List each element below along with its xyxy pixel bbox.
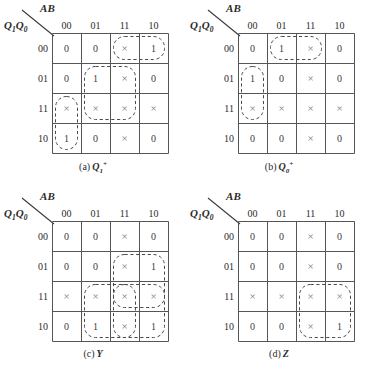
kmap-cell-r3-c2: × <box>110 123 139 153</box>
kmap-cell-r1-c0: 0 <box>238 251 267 281</box>
kmap-cell-r0-c3: 1 <box>139 33 168 63</box>
panel-caption: (c)Y <box>0 348 186 359</box>
kmap-cell-r1-c3: 0 <box>325 251 354 281</box>
panel-caption: (b)Q0+ <box>186 160 372 175</box>
kmap-cell-r0-c2: × <box>296 33 325 63</box>
row-header-11-2: 11 <box>210 103 234 114</box>
axis-top-label: AB <box>40 190 55 202</box>
row-header-10-3: 10 <box>210 321 234 332</box>
column-header-01-1: 01 <box>267 20 296 31</box>
column-header-10-3: 10 <box>325 208 354 219</box>
kmap-panel-a: ABQ1Q0000111100001111000×101×0××××10×0(a… <box>0 0 186 188</box>
kmap-cell-r3-c1: 0 <box>267 311 296 341</box>
kmap-cell-r2-c1: × <box>267 93 296 123</box>
row-header-11-2: 11 <box>24 103 48 114</box>
panel-caption: (d)Z <box>186 348 372 359</box>
caption-index: (b) <box>265 161 277 172</box>
row-header-01-1: 01 <box>210 261 234 272</box>
caption-index: (a) <box>79 161 90 172</box>
caption-index: (d) <box>269 348 281 359</box>
kmap-grid: 00×000×0××××00×1 <box>238 221 354 341</box>
column-header-01-1: 01 <box>81 20 110 31</box>
kmap-grid: 00×000×1××××01×1 <box>52 221 168 341</box>
kmap-cell-r2-c1: × <box>267 281 296 311</box>
kmap-cell-r0-c3: 0 <box>325 33 354 63</box>
kmap-cell-r2-c1: × <box>81 281 110 311</box>
caption-name: Q0+ <box>278 161 293 172</box>
kmap-cell-r3-c2: × <box>296 123 325 153</box>
column-header-11-2: 11 <box>296 208 325 219</box>
row-header-01-1: 01 <box>24 73 48 84</box>
row-header-01-1: 01 <box>210 73 234 84</box>
column-header-11-2: 11 <box>110 20 139 31</box>
column-header-00-0: 00 <box>52 208 81 219</box>
column-header-10-3: 10 <box>325 20 354 31</box>
kmap-figure: ABQ1Q0000111100001111000×101×0××××10×0(a… <box>0 0 372 376</box>
panel-caption: (a)Q1+ <box>0 160 186 175</box>
kmap-cell-r3-c3: 1 <box>325 311 354 341</box>
axis-top-label: AB <box>40 2 55 14</box>
axis-left-q1: Q1 <box>4 207 16 219</box>
caption-name: Q1+ <box>92 161 107 172</box>
kmap-cell-r2-c0: × <box>52 93 81 123</box>
row-header-10-3: 10 <box>24 133 48 144</box>
kmap-cell-r1-c1: 0 <box>267 63 296 93</box>
kmap-cell-r1-c2: × <box>296 63 325 93</box>
caption-index: (c) <box>83 348 94 359</box>
axis-left-label: Q1Q0 <box>4 19 27 34</box>
kmap-panel-c: ABQ1Q0000111100001111000×000×1××××01×1(c… <box>0 188 186 376</box>
row-header-00-0: 00 <box>210 43 234 54</box>
axis-left-q1: Q1 <box>190 19 202 31</box>
axis-top-label: AB <box>226 2 241 14</box>
kmap-cell-r0-c0: 0 <box>52 221 81 251</box>
kmap-grid: 01×010×0××××00×0 <box>238 33 354 153</box>
kmap-cell-r0-c1: 0 <box>81 221 110 251</box>
kmap-cell-r2-c2: × <box>110 281 139 311</box>
kmap-cell-r2-c0: × <box>52 281 81 311</box>
kmap-cell-r1-c3: 0 <box>325 63 354 93</box>
kmap-cell-r2-c1: × <box>81 93 110 123</box>
axis-left-q0: Q0 <box>16 19 28 31</box>
kmap-cell-r2-c3: × <box>139 281 168 311</box>
kmap-cell-r0-c2: × <box>296 221 325 251</box>
row-header-10-3: 10 <box>24 321 48 332</box>
axis-left-q1: Q1 <box>4 19 16 31</box>
axis-top-label: AB <box>226 190 241 202</box>
kmap-cell-r3-c2: × <box>110 311 139 341</box>
kmap-cell-r1-c1: 0 <box>267 251 296 281</box>
kmap-cell-r1-c3: 1 <box>139 251 168 281</box>
kmap-cell-r1-c0: 1 <box>238 63 267 93</box>
row-header-00-0: 00 <box>210 231 234 242</box>
kmap-cell-r0-c3: 0 <box>139 221 168 251</box>
kmap-cell-r2-c2: × <box>296 93 325 123</box>
kmap-cell-r3-c3: 0 <box>325 123 354 153</box>
axis-left-q0: Q0 <box>202 19 214 31</box>
kmap-cell-r1-c1: 0 <box>81 251 110 281</box>
kmap-cell-r0-c3: 0 <box>325 221 354 251</box>
column-header-00-0: 00 <box>52 20 81 31</box>
kmap-cell-r0-c1: 0 <box>267 221 296 251</box>
kmap-cell-r3-c1: 0 <box>267 123 296 153</box>
kmap-cell-r2-c2: × <box>296 281 325 311</box>
kmap-panel-b: ABQ1Q0000111100001111001×010×0××××00×0(b… <box>186 0 372 188</box>
kmap-cell-r1-c2: × <box>296 251 325 281</box>
kmap-cell-r3-c1: 1 <box>81 311 110 341</box>
kmap-cell-r2-c3: × <box>139 93 168 123</box>
kmap-cell-r3-c0: 0 <box>238 123 267 153</box>
axis-left-label: Q1Q0 <box>190 19 213 34</box>
kmap-cell-r2-c3: × <box>325 281 354 311</box>
axis-left-label: Q1Q0 <box>4 207 27 222</box>
column-header-01-1: 01 <box>81 208 110 219</box>
axis-left-q0: Q0 <box>202 207 214 219</box>
kmap-panel-d: ABQ1Q0000111100001111000×000×0××××00×1(d… <box>186 188 372 376</box>
kmap-cell-r1-c3: 0 <box>139 63 168 93</box>
kmap-cell-r1-c2: × <box>110 251 139 281</box>
row-header-11-2: 11 <box>24 291 48 302</box>
kmap-cell-r3-c0: 0 <box>52 311 81 341</box>
kmap-cell-r2-c0: × <box>238 281 267 311</box>
caption-name: Y <box>97 348 103 359</box>
row-header-00-0: 00 <box>24 43 48 54</box>
kmap-cell-r3-c2: × <box>296 311 325 341</box>
kmap-cell-r1-c1: 1 <box>81 63 110 93</box>
kmap-cell-r0-c0: 0 <box>52 33 81 63</box>
